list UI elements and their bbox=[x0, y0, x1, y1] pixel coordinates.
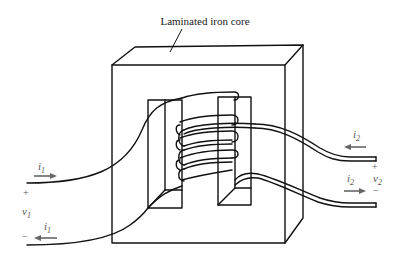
i1-top-symbol: i1 bbox=[38, 160, 45, 175]
i1-bottom-arrow-icon bbox=[34, 235, 57, 241]
i1-bottom-symbol: i1 bbox=[44, 220, 51, 235]
secondary-winding bbox=[179, 123, 376, 207]
i2-bottom-symbol: i2 bbox=[347, 172, 354, 187]
i2-bottom-arrow-icon bbox=[344, 188, 366, 194]
v2-plus: + bbox=[372, 161, 378, 172]
v1-plus: + bbox=[23, 187, 29, 198]
core-label: Laminated iron core bbox=[160, 15, 249, 27]
primary-labels: i1 + v1 i1 − bbox=[22, 160, 57, 242]
v2-minus: − bbox=[373, 185, 379, 196]
primary-winding bbox=[27, 92, 239, 245]
iron-core bbox=[112, 45, 303, 243]
secondary-labels: i2 + i2 v2 − bbox=[344, 128, 382, 196]
i2-top-symbol: i2 bbox=[353, 128, 360, 143]
core-window-left bbox=[148, 100, 182, 208]
transformer-diagram: Laminated iron core bbox=[0, 0, 403, 259]
core-label-leader bbox=[170, 29, 182, 52]
i2-top-arrow-icon bbox=[344, 144, 366, 150]
v1-minus: − bbox=[22, 231, 28, 242]
i1-top-arrow-icon bbox=[34, 173, 57, 179]
core-window-right bbox=[218, 97, 251, 205]
v1-symbol: v1 bbox=[22, 205, 31, 220]
